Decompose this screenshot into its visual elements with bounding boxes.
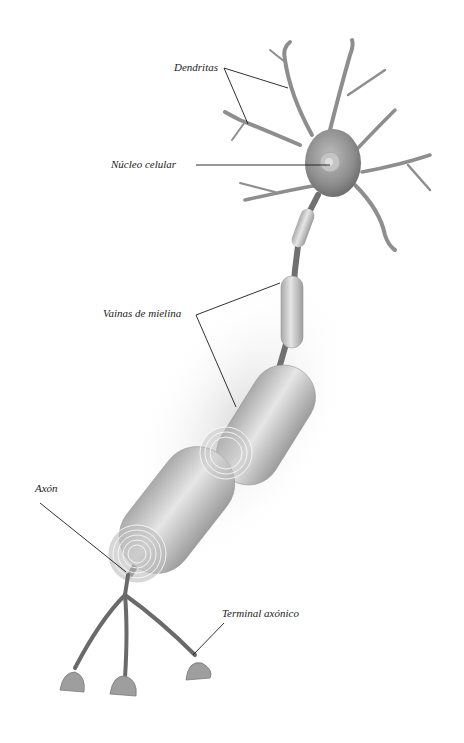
label-nucleus: Núcleo celular [111, 158, 176, 170]
neuron-illustration [0, 0, 464, 743]
label-axon: Axón [35, 482, 58, 494]
label-myelin-sheaths: Vainas de mielina [103, 307, 181, 319]
label-axon-terminal: Terminal axónico [222, 607, 299, 619]
synaptic-knobs [60, 663, 211, 696]
label-dendrites: Dendritas [174, 61, 218, 73]
axon-terminals [75, 575, 195, 678]
neuron-diagram: Dendritas Núcleo celular Vainas de mieli… [0, 0, 464, 743]
